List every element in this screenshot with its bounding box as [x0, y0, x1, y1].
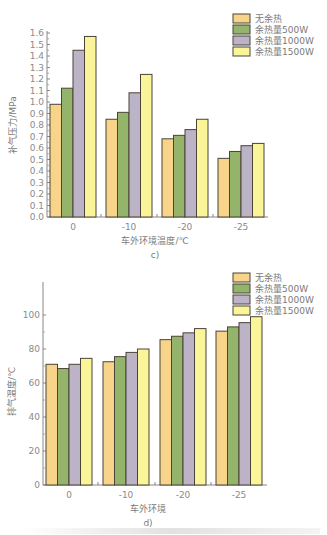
y-tick-label: 0.0	[30, 212, 45, 222]
y-tick-label: 1.5	[30, 40, 44, 50]
bar	[126, 352, 138, 485]
legend: 无余热余热量500W余热量1000W余热量1500W	[233, 13, 314, 57]
x-tick-label: -25	[234, 222, 249, 232]
bar	[230, 151, 242, 217]
x-axis-title: 车外环境	[130, 503, 166, 514]
bar	[46, 364, 58, 485]
legend-label: 无余热	[255, 13, 282, 24]
x-axis-title: 车外环境温度/℃	[121, 235, 188, 246]
legend-item: 无余热	[233, 272, 282, 283]
x-tick-label: -10	[122, 222, 137, 232]
y-tick-label: 1.1	[30, 86, 44, 96]
bar	[241, 146, 253, 217]
y-tick-label: 0.8	[30, 120, 45, 130]
legend-label: 余热量1000W	[255, 35, 314, 46]
bar-group--25	[218, 143, 264, 217]
bar	[162, 139, 174, 217]
legend: 无余热余热量500W余热量1000W余热量1500W	[233, 272, 314, 316]
bar-group-0	[50, 36, 96, 217]
bar	[253, 143, 265, 217]
legend-swatch	[233, 25, 250, 34]
bar	[183, 333, 195, 485]
bar	[185, 130, 197, 217]
bar	[239, 323, 251, 485]
y-tick-label: 20	[29, 446, 41, 456]
legend-label: 余热量500W	[255, 283, 308, 294]
y-tick-label: 0.5	[30, 155, 44, 165]
x-tick-label: 0	[66, 490, 72, 500]
bar-group--20	[162, 119, 208, 217]
legend-swatch	[233, 14, 250, 23]
bar	[129, 93, 141, 217]
legend-item: 余热量500W	[233, 283, 308, 294]
x-tick-label: -25	[232, 490, 247, 500]
legend-swatch	[233, 273, 250, 282]
y-tick-label: 0.3	[30, 178, 44, 188]
y-tick-label: 0.1	[30, 201, 44, 211]
chart-d-discharge-temperature: 0204060801000-10-20-25车外环境d)排气温度/℃无余热余热量…	[0, 262, 327, 535]
cropped-caption-text	[20, 528, 320, 534]
y-tick-label: 1.6	[30, 28, 45, 38]
bar	[69, 364, 81, 485]
legend-label: 余热量1500W	[255, 305, 314, 316]
bar-group--10	[103, 349, 149, 485]
x-tick-label: 0	[70, 222, 76, 232]
bar	[115, 357, 127, 485]
y-tick-label: 0.6	[30, 143, 45, 153]
legend-item: 无余热	[233, 13, 282, 24]
bar	[172, 336, 184, 485]
legend-label: 无余热	[255, 272, 282, 283]
bar-group--20	[160, 329, 206, 485]
y-tick-label: 1.2	[30, 74, 44, 84]
y-tick-label: 100	[23, 310, 40, 320]
y-tick-label: 0.7	[30, 132, 44, 142]
y-tick-label: 80	[29, 344, 41, 354]
bar-group--25	[216, 317, 262, 485]
bar	[106, 119, 118, 217]
bar	[62, 88, 74, 217]
x-tick-label: -20	[176, 490, 191, 500]
legend-swatch	[233, 47, 250, 56]
bar	[174, 135, 186, 217]
y-axis: 0.00.10.20.30.40.50.60.70.80.91.01.11.21…	[30, 28, 50, 222]
y-tick-label: 1.4	[30, 51, 45, 61]
bar	[160, 340, 172, 485]
bar	[73, 50, 85, 217]
chart-c-suction-pressure: 0.00.10.20.30.40.50.60.70.80.91.01.11.21…	[0, 0, 327, 262]
bar	[251, 317, 263, 485]
y-tick-label: 40	[29, 412, 41, 422]
bar	[103, 362, 115, 485]
y-tick-label: 1.3	[30, 63, 44, 73]
bar-group-0	[46, 358, 92, 485]
bar	[197, 119, 209, 217]
bar	[228, 327, 240, 485]
y-tick-label: 60	[29, 378, 41, 388]
bar	[85, 36, 97, 217]
panel-caption: d)	[143, 518, 152, 528]
legend-item: 余热量1500W	[233, 46, 314, 57]
legend-item: 余热量1000W	[233, 294, 314, 305]
bar	[218, 158, 230, 217]
legend-label: 余热量500W	[255, 24, 308, 35]
y-axis: 020406080100	[23, 282, 46, 490]
y-tick-label: 0.2	[30, 189, 44, 199]
bar	[81, 358, 93, 485]
x-tick-label: -20	[178, 222, 193, 232]
y-tick-label: 0.4	[30, 166, 45, 176]
legend-item: 余热量1500W	[233, 305, 314, 316]
legend-item: 余热量500W	[233, 24, 308, 35]
bar	[141, 74, 153, 217]
y-tick-label: 1.0	[30, 97, 45, 107]
bar-group--10	[106, 74, 152, 217]
legend-item: 余热量1000W	[233, 35, 314, 46]
bar	[50, 104, 62, 217]
bar	[216, 331, 228, 485]
bar	[58, 369, 70, 485]
legend-label: 余热量1000W	[255, 294, 314, 305]
x-tick-label: -10	[119, 490, 134, 500]
y-axis-title: 补气压力/MPa	[7, 96, 18, 153]
y-tick-label: 0	[34, 480, 40, 490]
legend-swatch	[233, 36, 250, 45]
legend-swatch	[233, 295, 250, 304]
bar	[118, 112, 130, 217]
